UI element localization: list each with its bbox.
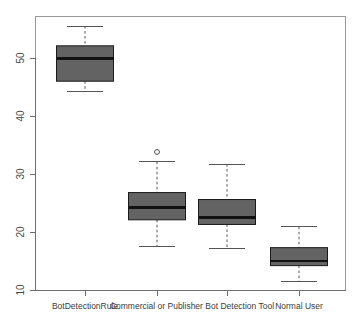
box-body-1 [57, 46, 114, 81]
y-tick-label-20: 20 [15, 226, 26, 238]
boxplot-figure: 50 40 30 20 10 BotDetectionRule Commerci… [0, 0, 361, 328]
y-axis-ticks [30, 58, 36, 290]
box-group-1 [57, 26, 114, 91]
y-tick-label-30: 30 [15, 168, 26, 180]
x-tick-label-normal-user: Normal User [275, 301, 323, 311]
box-body-2 [129, 193, 186, 220]
box-body-3 [199, 200, 256, 225]
box-group-3 [199, 164, 256, 249]
box-body-4 [271, 248, 328, 266]
x-tick-label-botdetectionrule: BotDetectionRule [52, 301, 118, 311]
boxplot-series [57, 26, 328, 282]
outlier-2-1 [155, 150, 160, 155]
y-tick-label-50: 50 [15, 52, 26, 64]
y-axis-tick-labels: 50 40 30 20 10 [15, 52, 26, 296]
box-group-2 [129, 150, 186, 247]
box-group-4 [271, 227, 328, 282]
y-tick-label-40: 40 [15, 110, 26, 122]
y-tick-label-10: 10 [15, 284, 26, 296]
x-axis-ticks [85, 291, 299, 297]
x-axis-tick-labels: BotDetectionRule Commercial or Publisher… [52, 301, 323, 311]
boxplot-canvas: 50 40 30 20 10 BotDetectionRule Commerci… [0, 0, 361, 328]
x-tick-label-commercial-publisher-tool: Commercial or Publisher Bot Detection To… [110, 301, 274, 311]
